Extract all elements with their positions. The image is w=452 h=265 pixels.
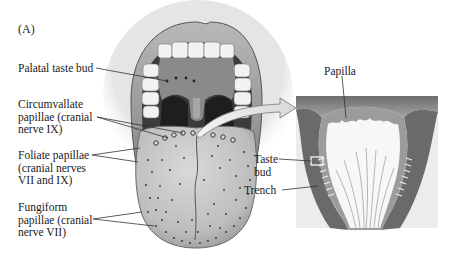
label-palatal-taste-bud: Palatal taste bud (18, 62, 93, 75)
label-circumvallate-papillae: Circumvallate papillae (cranial nerve IX… (18, 98, 92, 136)
panel-label: (A) (18, 22, 35, 37)
label-taste-bud: Taste bud (254, 153, 278, 178)
uvula (193, 98, 200, 119)
label-foliate-papillae: Foliate papillae (cranial nerves VII and… (18, 149, 89, 187)
figure: (A) Palatal taste bud Circumvallate papi… (0, 0, 452, 265)
throat-left (160, 96, 188, 128)
label-papilla: Papilla (324, 65, 356, 78)
label-trench: Trench (244, 184, 276, 197)
label-fungiform-papillae: Fungiform papillae (cranial nerve VII) (18, 201, 92, 239)
papilla-cross-section (296, 96, 438, 230)
